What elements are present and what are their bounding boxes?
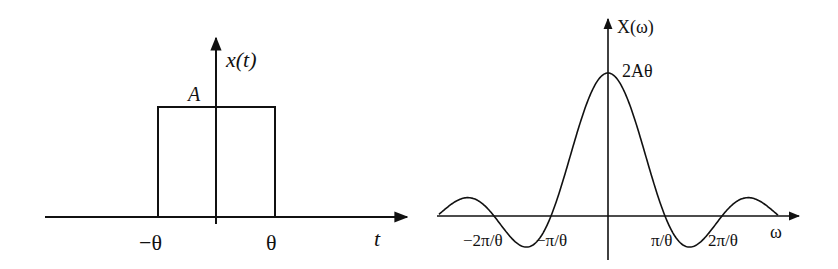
pulse-plot: x(t) A −θ θ t [45, 38, 407, 255]
tick-2pi-theta: 2π/θ [708, 231, 738, 250]
peak-label: 2Aθ [622, 61, 653, 81]
diagram-canvas: x(t) A −θ θ t X(ω) 2Aθ −2π/θ −π/θ π/θ 2π… [0, 0, 838, 269]
x-axis-label: t [374, 226, 381, 251]
y-axis-label: x(t) [225, 47, 257, 72]
tick-pos-theta: θ [266, 230, 277, 255]
tick-neg-2pi-theta: −2π/θ [463, 231, 503, 250]
spectrum-x-label: ω [770, 222, 782, 242]
spectrum-plot: X(ω) 2Aθ −2π/θ −π/θ π/θ 2π/θ ω [437, 17, 799, 260]
tick-neg-theta: −θ [139, 230, 162, 255]
amplitude-label: A [186, 83, 201, 105]
spectrum-y-label: X(ω) [617, 17, 654, 38]
tick-neg-pi-theta: −π/θ [536, 231, 567, 250]
tick-pi-theta: π/θ [651, 231, 672, 250]
